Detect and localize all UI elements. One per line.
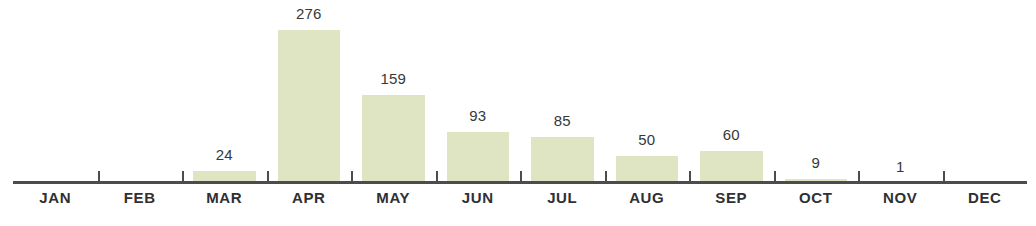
bar-slot-apr	[267, 0, 352, 184]
value-label-may: 159	[351, 71, 436, 86]
value-label-nov: 1	[858, 159, 943, 174]
value-label-oct: 9	[774, 155, 859, 170]
category-label-oct[interactable]: OCT	[774, 188, 859, 208]
bar-slot-aug	[605, 0, 690, 184]
bar-aug[interactable]	[616, 156, 679, 184]
tick-mark-sep	[689, 171, 691, 182]
bar-sep[interactable]	[700, 151, 763, 184]
value-label-sep: 60	[689, 127, 774, 142]
value-label-mar: 24	[182, 147, 267, 162]
bar-slot-jun	[436, 0, 521, 184]
category-label-feb[interactable]: FEB	[98, 188, 183, 208]
category-label-jan[interactable]: JAN	[13, 188, 98, 208]
category-label-mar[interactable]: MAR	[182, 188, 267, 208]
x-axis-category-labels: JANFEBMARAPRMAYJUNJULAUGSEPOCTNOVDEC	[0, 188, 1036, 212]
bar-chart: 242761599385506091 JANFEBMARAPRMAYJUNJUL…	[0, 0, 1036, 226]
category-label-apr[interactable]: APR	[267, 188, 352, 208]
category-label-nov[interactable]: NOV	[858, 188, 943, 208]
bar-slot-sep	[689, 0, 774, 184]
tick-mark-oct	[774, 171, 776, 182]
tick-mark-feb	[98, 171, 100, 182]
bar-jun[interactable]	[447, 132, 510, 184]
category-label-jul[interactable]: JUL	[520, 188, 605, 208]
cropped-caption-artifact	[0, 219, 1036, 226]
tick-mark-apr	[267, 171, 269, 182]
bar-jul[interactable]	[531, 137, 594, 184]
value-label-jun: 93	[436, 108, 521, 123]
plot-area: 242761599385506091	[0, 0, 1036, 184]
value-label-jul: 85	[520, 113, 605, 128]
bar-slot-jan	[13, 0, 98, 184]
category-label-jun[interactable]: JUN	[436, 188, 521, 208]
tick-mark-nov	[858, 171, 860, 182]
category-label-dec[interactable]: DEC	[943, 188, 1028, 208]
category-label-aug[interactable]: AUG	[605, 188, 690, 208]
bar-apr[interactable]	[278, 30, 341, 184]
bar-may[interactable]	[362, 95, 425, 184]
bar-slot-nov	[858, 0, 943, 184]
bar-slot-feb	[98, 0, 183, 184]
tick-mark-may	[351, 171, 353, 182]
tick-mark-jul	[520, 171, 522, 182]
value-label-aug: 50	[605, 132, 690, 147]
tick-mark-aug	[605, 171, 607, 182]
bar-slot-jul	[520, 0, 605, 184]
tick-mark-jun	[436, 171, 438, 182]
category-label-may[interactable]: MAY	[351, 188, 436, 208]
bar-slot-may	[351, 0, 436, 184]
tick-mark-dec	[943, 171, 945, 182]
value-label-apr: 276	[267, 6, 352, 21]
tick-mark-mar	[182, 171, 184, 182]
category-label-sep[interactable]: SEP	[689, 188, 774, 208]
bar-slot-dec	[943, 0, 1028, 184]
